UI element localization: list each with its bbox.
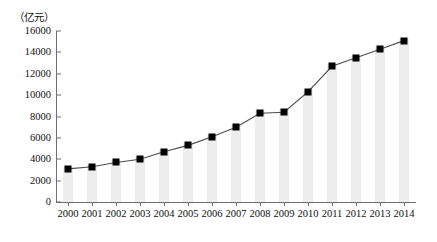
x-tick-label: 2007 bbox=[226, 209, 247, 220]
x-tick-mark bbox=[68, 202, 69, 206]
x-tick-label: 2008 bbox=[250, 209, 271, 220]
data-point-marker bbox=[401, 37, 408, 44]
x-tick-mark bbox=[236, 202, 237, 206]
x-tick-label: 2009 bbox=[274, 209, 295, 220]
y-tick-label: 12000 bbox=[25, 69, 51, 80]
x-tick-mark bbox=[308, 202, 309, 206]
x-tick-mark bbox=[92, 202, 93, 206]
data-point-marker bbox=[209, 133, 216, 140]
x-tick-mark bbox=[140, 202, 141, 206]
y-tick-mark bbox=[56, 52, 61, 53]
x-tick-mark bbox=[164, 202, 165, 206]
data-point-marker bbox=[257, 110, 264, 117]
x-tick-label: 2006 bbox=[202, 209, 223, 220]
y-tick-mark bbox=[56, 202, 61, 203]
x-tick-mark bbox=[116, 202, 117, 206]
data-point-marker bbox=[137, 156, 144, 163]
y-tick-label: 2000 bbox=[30, 175, 51, 186]
y-tick-label: 0 bbox=[46, 197, 51, 208]
y-tick-mark bbox=[56, 95, 61, 96]
x-tick-mark bbox=[404, 202, 405, 206]
x-tick-mark bbox=[284, 202, 285, 206]
y-tick-mark bbox=[56, 159, 61, 160]
data-point-marker bbox=[113, 159, 120, 166]
y-tick-label: 16000 bbox=[25, 26, 51, 37]
x-tick-label: 2003 bbox=[130, 209, 151, 220]
x-tick-mark bbox=[356, 202, 357, 206]
data-point-marker bbox=[233, 124, 240, 131]
data-point-marker bbox=[185, 142, 192, 149]
y-tick-label: 4000 bbox=[30, 154, 51, 165]
data-point-marker bbox=[161, 148, 168, 155]
x-tick-mark bbox=[188, 202, 189, 206]
x-tick-label: 2001 bbox=[82, 209, 103, 220]
line-chart: （亿元） 02000400060008000100001200014000160… bbox=[0, 0, 437, 242]
data-point-marker bbox=[377, 46, 384, 53]
x-tick-label: 2010 bbox=[298, 209, 319, 220]
x-tick-label: 2005 bbox=[178, 209, 199, 220]
x-tick-mark bbox=[380, 202, 381, 206]
x-tick-label: 2012 bbox=[346, 209, 367, 220]
x-tick-mark bbox=[212, 202, 213, 206]
x-tick-label: 2002 bbox=[106, 209, 127, 220]
data-point-marker bbox=[89, 163, 96, 170]
x-tick-label: 2000 bbox=[58, 209, 79, 220]
x-tick-mark bbox=[332, 202, 333, 206]
series-line bbox=[56, 31, 416, 202]
plot-area: 0200040006000800010000120001400016000 20… bbox=[56, 31, 416, 202]
y-tick-mark bbox=[56, 116, 61, 117]
y-tick-label: 14000 bbox=[25, 47, 51, 58]
data-point-marker bbox=[281, 109, 288, 116]
y-tick-mark bbox=[56, 180, 61, 181]
y-axis-unit-label: （亿元） bbox=[14, 9, 54, 24]
x-tick-mark bbox=[260, 202, 261, 206]
x-tick-label: 2004 bbox=[154, 209, 175, 220]
y-tick-label: 10000 bbox=[25, 90, 51, 101]
x-tick-label: 2011 bbox=[322, 209, 343, 220]
data-point-marker bbox=[353, 54, 360, 61]
data-point-marker bbox=[329, 63, 336, 70]
y-tick-label: 8000 bbox=[30, 111, 51, 122]
y-tick-label: 6000 bbox=[30, 133, 51, 144]
data-point-marker bbox=[305, 88, 312, 95]
x-tick-label: 2014 bbox=[394, 209, 415, 220]
x-tick-label: 2013 bbox=[370, 209, 391, 220]
y-tick-mark bbox=[56, 31, 61, 32]
data-point-marker bbox=[65, 165, 72, 172]
y-tick-mark bbox=[56, 73, 61, 74]
y-tick-mark bbox=[56, 137, 61, 138]
